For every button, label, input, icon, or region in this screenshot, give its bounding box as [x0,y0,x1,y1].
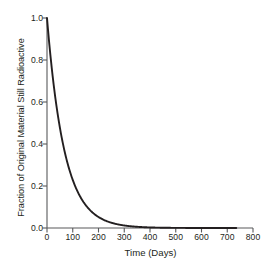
y-tick-label: 0.2 [21,181,43,191]
y-tick-label: 0.6 [21,97,43,107]
x-tick-label: 400 [138,232,162,242]
y-axis-label: Fraction of Original Material Still Radi… [14,20,28,235]
y-axis-ticks [43,18,48,228]
decay-curve-line [47,18,236,228]
x-tick-label: 0 [35,232,59,242]
x-tick-label: 100 [61,232,85,242]
x-tick-label: 600 [190,232,214,242]
y-tick-label: 0.4 [21,139,43,149]
x-tick-label: 500 [164,232,188,242]
y-tick-label: 0.8 [21,55,43,65]
x-tick-label: 700 [215,232,239,242]
x-tick-label: 800 [241,232,265,242]
x-tick-label: 300 [112,232,136,242]
chart-figure: Fraction of Original Material Still Radi… [0,0,275,274]
x-axis-label: Time (Days) [47,247,254,258]
x-tick-label: 200 [87,232,111,242]
y-tick-label: 0.0 [21,223,43,233]
y-tick-label: 1.0 [21,13,43,23]
